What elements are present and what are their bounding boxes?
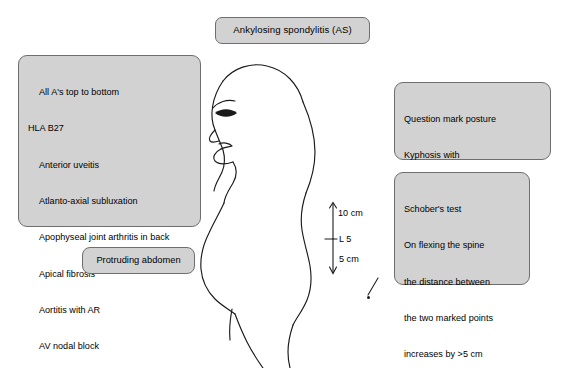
schober-line: the distance between <box>404 276 521 288</box>
mnemonic-box: All A's top to bottom HLA B27 Anterior u… <box>18 55 201 227</box>
eye-icon <box>215 109 237 117</box>
front-neck-chest-outline <box>224 162 236 203</box>
posture-line: Kyphosis with <box>404 149 542 161</box>
schober-test-box: Schober's test On flexing the spine the … <box>394 172 530 285</box>
measure-upper-label: 10 cm <box>338 208 363 219</box>
mnemonic-line: Aortitis with AR <box>28 304 192 316</box>
measure-landmark-label: L 5 <box>339 234 351 245</box>
diagram-canvas: Ankylosing spondylitis (AS) All A's top … <box>0 0 562 368</box>
front-thigh-outline <box>235 314 263 368</box>
mnemonic-line: HLA B27 <box>28 122 192 134</box>
protruding-abdomen-box: Protruding abdomen <box>82 247 195 274</box>
buttock-thigh-outline <box>288 325 293 368</box>
leader-line-stroke <box>368 278 378 295</box>
schober-line: Schober's test <box>404 203 521 215</box>
forehead-outline <box>223 65 303 102</box>
chest-abdomen-outline <box>201 203 235 314</box>
mnemonic-line: Anterior uveitis <box>28 159 192 171</box>
upper-back-kyphosis-outline <box>303 102 315 193</box>
schober-measurement-annotation: 10 cm L 5 5 cm <box>320 196 400 282</box>
posture-line: Question mark posture <box>404 113 542 125</box>
title-box: Ankylosing spondylitis (AS) <box>215 17 370 44</box>
skin-marker-dot <box>367 296 370 299</box>
inner-leg-outline <box>230 309 232 340</box>
eyebrow <box>213 100 235 108</box>
measure-lower-label: 5 cm <box>339 254 359 265</box>
protruding-abdomen-label: Protruding abdomen <box>96 254 180 266</box>
posture-box: Question mark posture Kyphosis with lumb… <box>394 82 551 160</box>
schober-line: the two marked points <box>404 312 521 324</box>
mnemonic-line: AV nodal block <box>28 340 192 352</box>
marker-leader-line <box>360 276 386 302</box>
mnemonic-line: Apophyseal joint arthritis in back <box>28 231 192 243</box>
lumbar-back-outline <box>293 193 311 325</box>
schober-line: On flexing the spine <box>404 239 521 251</box>
title-label: Ankylosing spondylitis (AS) <box>233 24 351 36</box>
schober-line: increases by >5 cm <box>404 348 521 360</box>
mnemonic-line: Atlanto-axial subluxation <box>28 195 192 207</box>
head-and-back-outline <box>212 81 224 191</box>
mnemonic-line: All A's top to bottom <box>28 86 192 98</box>
